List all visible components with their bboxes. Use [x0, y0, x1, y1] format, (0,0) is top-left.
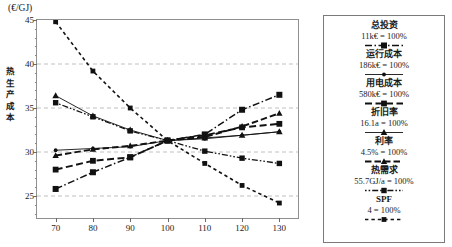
x-tick-mark-110: [205, 218, 206, 222]
series-5: [53, 100, 282, 166]
series-line-6: [56, 22, 280, 203]
y-axis-title: 热生产成本: [4, 66, 16, 124]
legend-item-2[interactable]: 用电成本580k€ = 100%: [326, 78, 442, 107]
y-tick-mark-30: [33, 152, 37, 153]
legend-item-value-6: 4 = 100%: [326, 205, 442, 216]
x-tick-label-130: 130: [273, 223, 287, 233]
series-point-2-0: [53, 167, 59, 173]
legend-item-value-5: 55.7GJ/a = 100%: [326, 176, 442, 187]
legend-marker-2: [381, 101, 387, 107]
y-tick-mark-25: [33, 196, 37, 197]
series-point-6-5: [240, 183, 245, 188]
legend-item-linestyle-2: [326, 100, 442, 107]
series-line-2: [56, 124, 280, 170]
x-tick-label-80: 80: [88, 223, 97, 233]
series-point-6-1: [91, 69, 96, 74]
series-point-3-6: [276, 128, 283, 134]
series-point-5-1: [90, 114, 95, 119]
x-tick-mark-80: [93, 218, 94, 222]
legend-item-value-0: 11k€ = 100%: [326, 31, 442, 42]
series-point-5-5: [239, 155, 244, 160]
x-tick-mark-70: [56, 218, 57, 222]
y-axis-title-char-2: 产: [4, 89, 16, 101]
y-axis-title-char-1: 生: [4, 78, 16, 90]
y-tick-minor: [35, 170, 38, 171]
y-tick-minor: [35, 73, 38, 74]
legend-marker-3: [381, 129, 388, 135]
legend-item-name-2: 用电成本: [326, 78, 442, 89]
legend-item-4[interactable]: 利率4.5% = 100%: [326, 136, 442, 165]
y-tick-minor: [35, 29, 38, 30]
series-point-1-0: [54, 148, 58, 152]
y-tick-minor: [35, 82, 38, 83]
series-point-5-0: [53, 100, 58, 105]
legend-item-name-4: 利率: [326, 136, 442, 147]
y-tick-minor: [35, 178, 38, 179]
legend-item-linestyle-6: [326, 216, 442, 223]
y-axis-title-char-4: 本: [4, 112, 16, 124]
legend-item-1[interactable]: 运行成本186k€ = 100%: [326, 49, 442, 78]
legend-box: 总投资11k€ = 100%运行成本186k€ = 100%用电成本580k€ …: [323, 15, 445, 243]
y-axis-title-char-0: 热: [4, 66, 16, 78]
legend-item-name-6: SPF: [326, 194, 442, 205]
series-point-6-6: [277, 201, 282, 206]
legend-item-name-3: 折旧率: [326, 107, 442, 118]
series-point-6-4: [202, 161, 207, 166]
legend-marker-6: [382, 217, 387, 222]
y-axis-title-char-3: 成: [4, 101, 16, 113]
legend-item-5[interactable]: 热需求55.7GJ/a = 100%: [326, 165, 442, 194]
series-point-0-1: [90, 169, 96, 175]
series-2: [53, 121, 283, 173]
legend-marker-0: [381, 43, 387, 49]
y-tick-minor: [35, 126, 38, 127]
legend-item-3[interactable]: 折旧率16.1a = 100%: [326, 107, 442, 136]
series-point-6-3: [165, 138, 170, 143]
y-tick-minor: [35, 161, 38, 162]
series-point-5-4: [202, 148, 207, 153]
legend-item-6[interactable]: SPF4 = 100%: [326, 194, 442, 223]
legend-item-name-0: 总投资: [326, 20, 442, 31]
y-tick-minor: [35, 90, 38, 91]
x-tick-label-100: 100: [161, 223, 175, 233]
series-point-2-2: [127, 154, 133, 160]
y-tick-minor: [35, 55, 38, 56]
legend-marker-5: [381, 188, 386, 193]
legend-item-value-4: 4.5% = 100%: [326, 147, 442, 158]
series-point-5-2: [128, 128, 133, 133]
plot-area: 2530354045708090100110120130: [36, 19, 299, 219]
series-point-3-0: [52, 92, 59, 98]
x-tick-label-120: 120: [235, 223, 249, 233]
x-tick-mark-90: [130, 218, 131, 222]
y-tick-minor: [35, 187, 38, 188]
x-tick-label-90: 90: [126, 223, 135, 233]
legend-item-linestyle-0: [326, 42, 442, 49]
series-line-4: [56, 113, 280, 155]
legend-item-linestyle-4: [326, 158, 442, 165]
plot-inner: 2530354045708090100110120130: [37, 20, 298, 218]
y-tick-mark-40: [33, 64, 37, 65]
y-tick-minor: [35, 46, 38, 47]
x-tick-label-110: 110: [198, 223, 211, 233]
legend-marker-1: [382, 73, 386, 77]
y-tick-minor: [35, 134, 38, 135]
series-point-4-6: [276, 110, 282, 116]
y-tick-minor: [35, 143, 38, 144]
x-tick-mark-120: [242, 218, 243, 222]
series-point-0-6: [276, 92, 282, 98]
y-tick-mark-45: [33, 20, 37, 21]
legend-item-value-3: 16.1a = 100%: [326, 118, 442, 129]
legend-item-value-1: 186k€ = 100%: [326, 60, 442, 71]
x-tick-label-70: 70: [51, 223, 60, 233]
legend-item-0[interactable]: 总投资11k€ = 100%: [326, 20, 442, 49]
y-tick-minor: [35, 117, 38, 118]
chart-lines-svg: [37, 20, 298, 218]
legend-item-name-1: 运行成本: [326, 49, 442, 60]
y-tick-minor: [35, 214, 38, 215]
legend-item-value-2: 580k€ = 100%: [326, 89, 442, 100]
legend-item-linestyle-3: [326, 129, 442, 136]
x-tick-mark-130: [279, 218, 280, 222]
series-point-5-6: [277, 161, 282, 166]
series-point-0-5: [239, 107, 245, 113]
series-3: [52, 92, 282, 143]
series-point-6-2: [128, 106, 133, 111]
